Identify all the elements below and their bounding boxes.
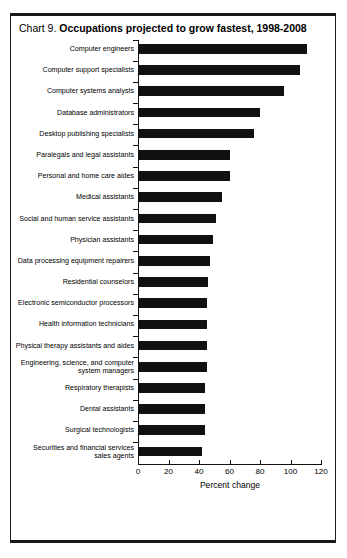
- bar-category-label: Paralegals and legal assistants: [6, 151, 134, 159]
- chart-title: Chart 9. Occupations projected to grow f…: [11, 16, 335, 35]
- bar-category-label: Personal and home care aides: [6, 172, 134, 180]
- bar-category-label: Medical assistants: [6, 193, 134, 201]
- bar: [138, 171, 230, 181]
- bar-category-label: Residential counselors: [6, 278, 134, 286]
- y-axis-line: [138, 40, 139, 464]
- bar-row: Data processing equipment repairers: [11, 251, 335, 272]
- x-tick: [199, 460, 200, 464]
- bar: [138, 362, 207, 372]
- bar-row: Desktop publishing specialists: [11, 124, 335, 145]
- bar-category-label: Computer systems analysts: [6, 87, 134, 95]
- bar: [138, 129, 254, 139]
- bar-row: Computer systems analysts: [11, 82, 335, 103]
- bar: [138, 214, 216, 224]
- bar-row: Dental assistants: [11, 400, 335, 421]
- x-tick: [138, 460, 139, 464]
- bar: [138, 235, 213, 245]
- bar-category-label: Dental assistants: [6, 405, 134, 413]
- bar-category-label: Computer support specialists: [6, 66, 134, 74]
- bar-category-label: Surgical technologists: [6, 426, 134, 434]
- chart-title-prefix: Chart 9.: [19, 22, 56, 34]
- x-tick-label: 100: [284, 467, 298, 476]
- bar: [138, 320, 207, 330]
- bar-row: Paralegals and legal assistants: [11, 145, 335, 166]
- bar: [138, 44, 307, 54]
- x-tick-label: 40: [194, 467, 203, 476]
- bar-row: Physical therapy assistants and aides: [11, 336, 335, 357]
- bar-row: Securities and financial services sales …: [11, 442, 335, 463]
- bar: [138, 108, 260, 118]
- chart-container: Chart 9. Occupations projected to grow f…: [10, 13, 336, 543]
- bar: [138, 256, 210, 266]
- bar: [138, 383, 205, 393]
- bar-row: Surgical technologists: [11, 421, 335, 442]
- bar-row: Respiratory therapists: [11, 379, 335, 400]
- x-tick: [230, 460, 231, 464]
- bar: [138, 447, 202, 457]
- bar: [138, 150, 230, 160]
- bar: [138, 192, 222, 202]
- bar-row: Database administrators: [11, 103, 335, 124]
- bar-row: Computer engineers: [11, 40, 335, 61]
- bar-row: Social and human service assistants: [11, 209, 335, 230]
- bar: [138, 404, 205, 414]
- bar: [138, 86, 284, 96]
- bar-row: Electronic semiconductor processors: [11, 294, 335, 315]
- x-tick-label: 80: [255, 467, 264, 476]
- x-tick-label: 20: [164, 467, 173, 476]
- bar-rows: Computer engineersComputer support speci…: [11, 40, 335, 464]
- x-tick: [260, 460, 261, 464]
- bar: [138, 65, 300, 75]
- bar-category-label: Respiratory therapists: [6, 384, 134, 392]
- bar-category-label: Health information technicians: [6, 320, 134, 328]
- bar-category-label: Engineering, science, and computer syste…: [6, 359, 134, 376]
- bar-row: Personal and home care aides: [11, 167, 335, 188]
- plot-area: Computer engineersComputer support speci…: [11, 40, 335, 527]
- x-tick: [291, 460, 292, 464]
- bar-row: Physician assistants: [11, 230, 335, 251]
- x-tick-label: 120: [314, 467, 328, 476]
- bar-category-label: Securities and financial services sales …: [6, 444, 134, 461]
- bar: [138, 298, 207, 308]
- bar-category-label: Social and human service assistants: [6, 215, 134, 223]
- bar: [138, 341, 207, 351]
- x-axis-line: [138, 464, 322, 465]
- chart-title-main: Occupations projected to grow fastest, 1…: [59, 22, 306, 34]
- bar-row: Medical assistants: [11, 188, 335, 209]
- bar: [138, 425, 205, 435]
- x-tick: [169, 460, 170, 464]
- x-axis-title: Percent change: [138, 480, 322, 490]
- x-tick-label: 0: [136, 467, 141, 476]
- bar-row: Engineering, science, and computer syste…: [11, 357, 335, 378]
- bar-category-label: Computer engineers: [6, 45, 134, 53]
- bar-category-label: Database administrators: [6, 109, 134, 117]
- x-tick-label: 60: [225, 467, 234, 476]
- bar-category-label: Electronic semiconductor processors: [6, 299, 134, 307]
- x-tick: [321, 460, 322, 464]
- bar-row: Health information technicians: [11, 315, 335, 336]
- bar-category-label: Physician assistants: [6, 236, 134, 244]
- bar-row: Residential counselors: [11, 273, 335, 294]
- bar: [138, 277, 208, 287]
- bar-category-label: Physical therapy assistants and aides: [6, 342, 134, 350]
- bar-row: Computer support specialists: [11, 61, 335, 82]
- bar-category-label: Data processing equipment repairers: [6, 257, 134, 265]
- bar-category-label: Desktop publishing specialists: [6, 130, 134, 138]
